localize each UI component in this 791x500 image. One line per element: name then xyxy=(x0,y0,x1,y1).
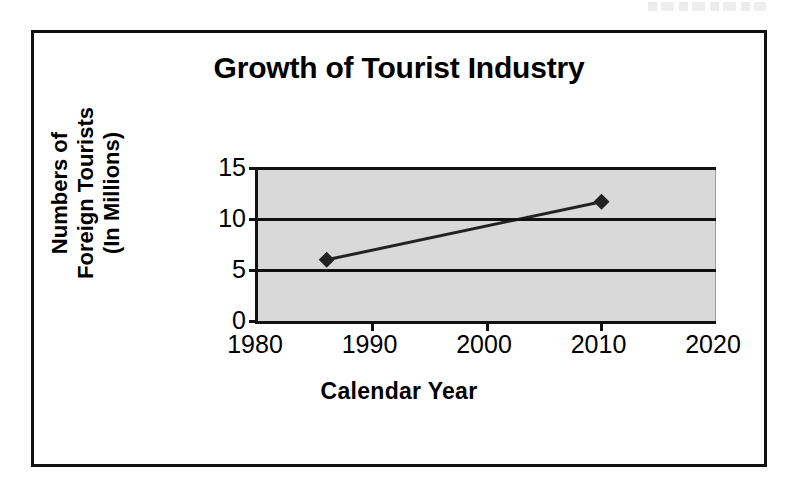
data-point-marker xyxy=(319,252,335,268)
gridline xyxy=(258,167,716,170)
y-axis-title-text: Numbers of Foreign Tourists (In Millions… xyxy=(47,107,125,279)
y-axis-title: Numbers of Foreign Tourists (In Millions… xyxy=(31,68,141,318)
x-axis-tick-labels: 19801990200020102020 xyxy=(255,329,713,361)
y-tick-mark xyxy=(249,269,258,272)
chart-title: Growth of Tourist Industry xyxy=(34,51,764,85)
series-line xyxy=(327,202,602,260)
x-tick-label: 1990 xyxy=(330,329,410,359)
x-tick-label: 2000 xyxy=(444,329,524,359)
y-tick-mark xyxy=(249,218,258,221)
y-tick-label: 10 xyxy=(202,206,246,231)
x-axis-title: Calendar Year xyxy=(34,378,764,405)
y-tick-label: 15 xyxy=(202,155,246,180)
gridline xyxy=(258,269,716,272)
x-tick-label: 1980 xyxy=(215,329,295,359)
scan-artifact xyxy=(648,2,766,11)
x-tick-label: 2020 xyxy=(673,329,753,359)
x-tick-label: 2010 xyxy=(559,329,639,359)
plot-area xyxy=(255,168,716,324)
y-tick-label: 5 xyxy=(202,257,246,282)
data-point-marker xyxy=(594,194,610,210)
data-series-overlay xyxy=(258,168,716,321)
chart-frame: Growth of Tourist Industry Numbers of Fo… xyxy=(31,30,767,467)
gridline xyxy=(258,218,716,221)
y-tick-mark xyxy=(249,167,258,170)
y-axis-tick-labels: 051015 xyxy=(198,168,246,321)
y-tick-mark xyxy=(249,320,258,323)
